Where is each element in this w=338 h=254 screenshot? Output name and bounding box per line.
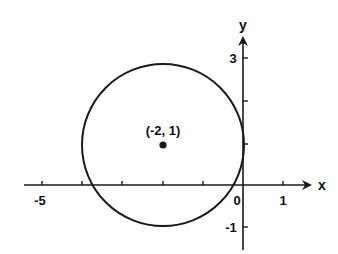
x-tick-label-1: 1	[279, 193, 286, 208]
x-axis-label: x	[318, 177, 326, 193]
center-point	[159, 141, 166, 148]
coordinate-plane: (-2, 1) x y -5 0 1 3 -1	[0, 0, 338, 254]
x-tick-label-0: 0	[233, 193, 240, 208]
y-tick-label-3: 3	[229, 51, 236, 66]
y-tick-label-neg1: -1	[225, 220, 237, 235]
y-axis-label: y	[239, 17, 247, 33]
x-tick-label-neg5: -5	[34, 193, 46, 208]
center-label: (-2, 1)	[146, 123, 181, 138]
